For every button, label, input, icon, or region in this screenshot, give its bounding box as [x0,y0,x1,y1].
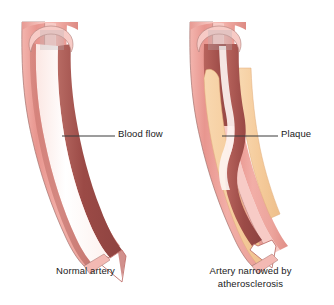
plaque-label: Plaque [281,128,311,139]
cutaway-plane-highlight-right [208,30,232,50]
caption-narrowed-artery: Artery narrowed by atherosclerosis [173,265,328,290]
caption-normal-artery-line-1: Normal artery [8,265,163,278]
cutaway-plane-highlight [40,30,64,50]
caption-narrowed-artery-line-2: atherosclerosis [173,278,328,291]
artery-comparison-figure: Blood flow Plaque Normal artery Artery n… [0,0,334,305]
caption-narrowed-artery-line-1: Artery narrowed by [173,265,328,278]
caption-normal-artery: Normal artery [8,265,163,278]
normal-artery-vessel [22,22,126,282]
narrowed-artery-vessel [190,22,288,274]
blood-flow-label: Blood flow [118,128,163,139]
artery-illustration [0,0,334,305]
